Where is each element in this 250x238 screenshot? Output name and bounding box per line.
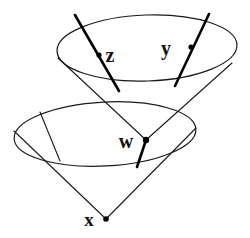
label-w: w <box>119 130 134 152</box>
diagram-background <box>0 0 250 238</box>
figure-root: z y w x <box>0 0 250 238</box>
light-cone-diagram: z y w x <box>0 0 250 238</box>
label-x: x <box>84 209 94 230</box>
label-y: y <box>161 37 171 60</box>
point-marker-z <box>96 52 101 57</box>
point-marker-w <box>143 137 149 143</box>
label-z: z <box>106 44 115 66</box>
point-marker-y <box>188 44 193 49</box>
point-marker-x <box>103 216 109 222</box>
